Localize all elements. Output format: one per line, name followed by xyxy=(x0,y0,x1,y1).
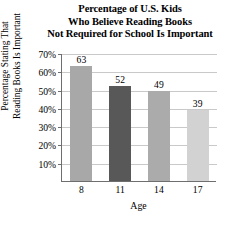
bar: 4914 xyxy=(148,91,170,181)
x-axis-tick-label: 8 xyxy=(79,184,84,195)
bar-value-label: 39 xyxy=(193,98,203,109)
chart-title-line-1: Percentage of U.S. Kids xyxy=(34,3,226,16)
x-axis-tick-label: 11 xyxy=(116,184,125,195)
y-axis-tick-label: 70% xyxy=(38,49,56,60)
y-axis-tick-label: 50% xyxy=(38,85,56,96)
y-axis-tick-label: 20% xyxy=(38,140,56,151)
y-axis-tick xyxy=(58,54,62,55)
plot-area: 70%60%50%40%30%20%10%638521149143917 xyxy=(61,54,216,182)
y-axis-tick xyxy=(58,127,62,128)
bar: 3917 xyxy=(187,110,209,181)
bar-chart-figure: Percentage of U.S. Kids Who Believe Read… xyxy=(0,0,229,225)
y-axis-tick-label: 40% xyxy=(38,103,56,114)
y-axis-tick-label: 60% xyxy=(38,67,56,78)
bar-value-label: 52 xyxy=(115,74,125,85)
bar: 5211 xyxy=(109,86,131,181)
y-axis-tick xyxy=(58,91,62,92)
x-axis-tick-label: 14 xyxy=(154,184,164,195)
y-axis-title-line-2: Reading Books Is Important xyxy=(11,0,23,134)
x-axis-tick-label: 17 xyxy=(193,184,203,195)
y-axis-tick xyxy=(58,109,62,110)
bar-value-label: 49 xyxy=(154,79,164,90)
y-axis-tick-label: 10% xyxy=(38,158,56,169)
chart-title-line-2: Who Believe Reading Books xyxy=(34,16,226,29)
bar-value-label: 63 xyxy=(77,54,87,65)
y-axis-title-line-1: Percentage Stating That xyxy=(0,0,11,134)
y-axis-tick xyxy=(58,164,62,165)
chart-title-line-3: Not Required for School Is Important xyxy=(34,28,226,41)
y-axis-tick xyxy=(58,72,62,73)
y-axis-title: Percentage Stating That Reading Books Is… xyxy=(0,0,27,134)
x-axis-title: Age xyxy=(61,200,216,211)
bar: 638 xyxy=(70,66,92,181)
y-axis-tick-label: 30% xyxy=(38,122,56,133)
y-axis-tick xyxy=(58,145,62,146)
chart-title: Percentage of U.S. Kids Who Believe Read… xyxy=(34,3,226,41)
